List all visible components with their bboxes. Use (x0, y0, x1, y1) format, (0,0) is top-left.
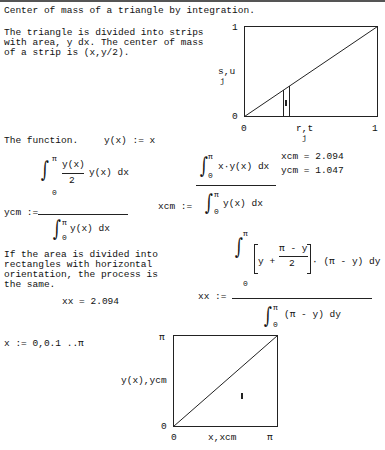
plot2-canvas (0, 0, 385, 450)
